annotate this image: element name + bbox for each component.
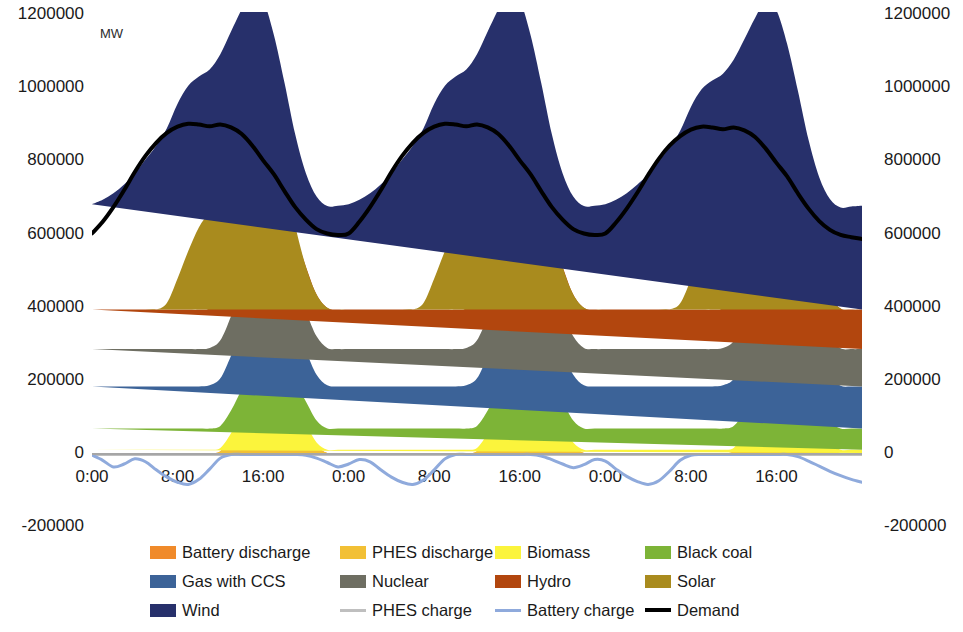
legend-swatch-icon <box>645 575 671 588</box>
legend-item-label: Black coal <box>677 544 752 561</box>
legend-item-black-coal[interactable]: Black coal <box>645 544 752 561</box>
legend-item-demand[interactable]: Demand <box>645 602 739 619</box>
legend-swatch-icon <box>150 575 176 588</box>
line-series-battery-charge <box>92 454 862 484</box>
legend-item-label: PHES charge <box>372 602 472 619</box>
legend-item-label: Demand <box>677 602 739 619</box>
legend-swatch-icon <box>645 546 671 559</box>
stacked-area-chart: MW 1200000100000080000060000040000020000… <box>0 0 963 632</box>
legend-item-wind[interactable]: Wind <box>150 602 220 619</box>
legend-item-label: Battery charge <box>527 602 634 619</box>
legend-item-nuclear[interactable]: Nuclear <box>340 573 429 590</box>
legend-item-label: Solar <box>677 573 716 590</box>
legend-item-battery-charge[interactable]: Battery charge <box>495 602 634 619</box>
legend-item-gas-with-ccs[interactable]: Gas with CCS <box>150 573 286 590</box>
area-series-group <box>92 0 862 454</box>
legend-swatch-icon <box>150 546 176 559</box>
legend-item-solar[interactable]: Solar <box>645 573 716 590</box>
legend-item-hydro[interactable]: Hydro <box>495 573 571 590</box>
legend-item-phes-charge[interactable]: PHES charge <box>340 602 472 619</box>
legend-item-battery-discharge[interactable]: Battery discharge <box>150 544 310 561</box>
legend-line-icon <box>495 604 521 617</box>
legend-line-icon <box>645 604 671 617</box>
legend-item-label: Wind <box>182 602 220 619</box>
chart-legend: Battery dischargePHES dischargeBiomassBl… <box>150 544 950 630</box>
legend-item-label: Biomass <box>527 544 590 561</box>
legend-item-label: Hydro <box>527 573 571 590</box>
legend-item-phes-discharge[interactable]: PHES discharge <box>340 544 493 561</box>
legend-line-icon <box>340 604 366 617</box>
legend-item-label: Nuclear <box>372 573 429 590</box>
legend-swatch-icon <box>495 546 521 559</box>
legend-item-biomass[interactable]: Biomass <box>495 544 590 561</box>
legend-item-label: Gas with CCS <box>182 573 286 590</box>
legend-swatch-icon <box>340 575 366 588</box>
legend-swatch-icon <box>150 604 176 617</box>
legend-item-label: Battery discharge <box>182 544 310 561</box>
legend-swatch-icon <box>495 575 521 588</box>
legend-item-label: PHES discharge <box>372 544 493 561</box>
plot-area <box>0 0 963 632</box>
legend-swatch-icon <box>340 546 366 559</box>
